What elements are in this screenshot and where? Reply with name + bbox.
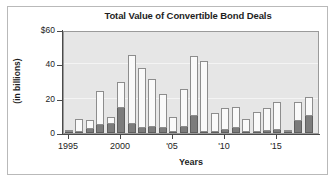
bar-segment-upper — [273, 102, 281, 129]
bar-2011 — [232, 107, 240, 133]
bar-1997 — [86, 120, 94, 133]
x-axis-tick — [276, 135, 277, 139]
x-axis-tick — [224, 135, 225, 139]
bar-1995 — [65, 131, 73, 133]
y-axis-line — [62, 30, 63, 135]
bar-segment-upper — [96, 91, 104, 125]
bar-segment-upper — [232, 107, 240, 128]
bar-segment-lower — [86, 129, 94, 133]
bar-segment-lower — [221, 130, 229, 133]
bar-2002 — [138, 68, 146, 133]
plot-area — [63, 31, 319, 134]
bar-segment-lower — [75, 132, 83, 133]
x-axis-line — [62, 134, 320, 135]
bar-2013 — [253, 112, 261, 133]
bar-segment-lower — [180, 127, 188, 133]
y-axis-tick — [57, 65, 62, 66]
bar-segment-lower — [128, 124, 136, 133]
bar-2014 — [263, 108, 271, 133]
bar-2018 — [305, 97, 313, 133]
bar-segment-lower — [190, 116, 198, 134]
bar-2007 — [190, 56, 198, 133]
x-axis-tick-label: '05 — [152, 141, 192, 152]
bar-segment-lower — [117, 108, 125, 133]
bar-segment-upper — [117, 82, 125, 107]
x-axis-tick — [172, 135, 173, 139]
bar-2017 — [294, 102, 302, 133]
bar-segment-upper — [128, 55, 136, 124]
y-axis-tick-label: 0 — [15, 129, 55, 138]
bar-2015 — [273, 102, 281, 133]
bar-segment-upper — [253, 112, 261, 132]
bar-2003 — [148, 79, 156, 133]
bar-2001 — [128, 55, 136, 133]
bar-segment-lower — [305, 116, 313, 133]
y-axis-tick-label: $60 — [15, 26, 55, 35]
bar-segment-lower — [148, 127, 156, 133]
x-axis-tick-label: 1995 — [48, 141, 88, 152]
bar-segment-upper — [190, 56, 198, 115]
bar-segment-upper — [242, 119, 250, 132]
bar-segment-upper — [263, 108, 271, 131]
bar-segment-lower — [96, 125, 104, 133]
x-axis-tick-label: '10 — [204, 141, 244, 152]
bar-segment-lower — [253, 132, 261, 133]
bar-2008 — [200, 61, 208, 133]
bar-segment-lower — [273, 130, 281, 133]
bar-2010 — [221, 108, 229, 133]
bar-segment-lower — [65, 132, 73, 133]
bar-segment-upper — [211, 113, 219, 132]
bar-1998 — [96, 91, 104, 133]
bar-segment-lower — [284, 132, 292, 133]
bar-2005 — [169, 117, 177, 133]
chart-title: Total Value of Convertible Bond Deals — [56, 10, 320, 21]
bar-1996 — [75, 119, 83, 133]
bar-segment-upper — [159, 94, 167, 128]
bar-2016 — [284, 131, 292, 133]
y-axis-tick — [57, 100, 62, 101]
bar-segment-upper — [200, 61, 208, 132]
bar-1999 — [107, 117, 115, 133]
bar-segment-lower — [169, 132, 177, 133]
bar-segment-upper — [221, 108, 229, 130]
bar-2006 — [180, 89, 188, 133]
bar-segment-upper — [86, 120, 94, 129]
bar-segment-upper — [75, 119, 83, 132]
bar-2009 — [211, 113, 219, 133]
bar-segment-upper — [180, 89, 188, 127]
bar-segment-lower — [159, 128, 167, 133]
bar-segment-lower — [242, 132, 250, 133]
bar-segment-upper — [294, 102, 302, 121]
bar-segment-upper — [138, 68, 146, 128]
x-axis-tick-label: 2000 — [100, 141, 140, 152]
bar-2012 — [242, 119, 250, 133]
bar-segment-lower — [138, 128, 146, 133]
bar-segment-lower — [211, 132, 219, 133]
bar-segment-lower — [107, 124, 115, 133]
bar-segment-upper — [305, 97, 313, 116]
bar-2004 — [159, 94, 167, 133]
bar-segment-lower — [294, 121, 302, 133]
x-axis-tick — [68, 135, 69, 139]
y-axis-tick — [57, 31, 62, 32]
x-axis-title: Years — [63, 157, 319, 167]
x-axis-tick — [120, 135, 121, 139]
bar-segment-lower — [232, 128, 240, 133]
bar-segment-lower — [263, 131, 271, 133]
bar-2000 — [117, 82, 125, 133]
bar-segment-upper — [107, 117, 115, 124]
x-axis-tick-label: '15 — [256, 141, 296, 152]
y-axis-title: (in billions) — [12, 41, 22, 121]
bar-segment-lower — [200, 132, 208, 133]
chart-figure: Total Value of Convertible Bond Deals $6… — [0, 0, 335, 182]
bar-segment-upper — [169, 117, 177, 131]
bar-segment-upper — [148, 79, 156, 127]
